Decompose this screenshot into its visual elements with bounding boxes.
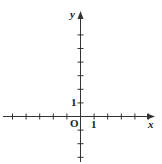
x-axis-label: x xyxy=(148,119,154,130)
y-unit-label: 1 xyxy=(71,97,77,108)
origin-label: O xyxy=(70,118,79,129)
y-axis-arrow-icon xyxy=(78,11,84,19)
coordinate-plane: y x O 1 1 xyxy=(0,0,162,164)
y-axis-label: y xyxy=(70,9,75,20)
x-unit-label: 1 xyxy=(91,119,97,130)
axes-graphic xyxy=(0,0,162,164)
